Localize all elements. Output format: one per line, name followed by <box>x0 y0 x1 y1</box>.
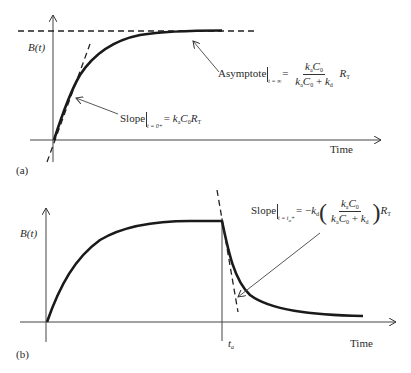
panel-a-y-axis-label: B(t) <box>28 42 45 53</box>
panel-a-slope-annotation: Slopet = 0+= kaC0RT <box>120 112 201 129</box>
slope-prefix: Slope <box>251 204 276 216</box>
panel-a <box>18 15 381 162</box>
panel-a-asymptote-arrow <box>193 41 219 72</box>
slope-condition: t = ta+ <box>278 215 295 221</box>
asymptote-fraction: kaC0 kaC0 + kd <box>293 61 335 88</box>
slope-prefix: Slope <box>120 112 145 124</box>
panel-b-x-axis-label: Time <box>350 338 373 349</box>
panel-a-slope-arrow <box>76 98 118 114</box>
diagram-canvas <box>0 0 411 373</box>
panel-a-asymptote-annotation: Asymptotet = ∞= kaC0 kaC0 + kd RT <box>218 61 350 88</box>
asymptote-condition: t = ∞ <box>268 78 281 84</box>
panel-b-panel-label: (b) <box>16 349 29 360</box>
panel-b-dissociation-slope-tangent <box>217 190 238 312</box>
asymptote-prefix: Asymptote <box>218 67 266 79</box>
panel-b-slope-arrow <box>238 233 320 297</box>
panel-b-slope-annotation: Slopet = ta+= −kd( kaC0 kaC0 + kd )RT <box>251 198 391 225</box>
panel-b-ta-label: ta <box>228 338 234 350</box>
panel-a-x-axis-label: Time <box>330 144 353 155</box>
slope-fraction: kaC0 kaC0 + kd <box>329 198 371 225</box>
slope-condition: t = 0+ <box>147 123 163 129</box>
panel-b-y-axis-label: B(t) <box>20 228 37 239</box>
panel-a-panel-label: (a) <box>16 165 28 176</box>
